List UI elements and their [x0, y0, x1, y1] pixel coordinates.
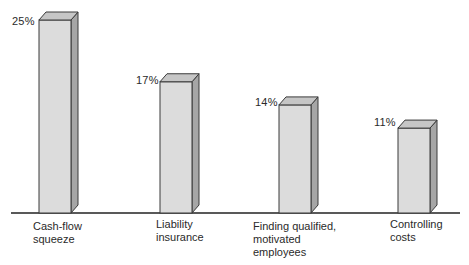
bar-chart: 25% 17% 14% 11% Cash-flow squeeze Liabil… [0, 0, 469, 265]
bar-front-face [398, 128, 430, 213]
bar-side-face [430, 120, 437, 213]
bar-2-category-label: Liability insurance [156, 218, 204, 244]
bar-side-face [192, 74, 199, 213]
bar-front-face [279, 105, 311, 213]
bar-side-face [71, 12, 78, 213]
bar-top-face [279, 97, 318, 105]
bar-3 [279, 97, 318, 213]
bar-2 [160, 74, 199, 213]
bar-1-category-label: Cash-flow squeeze [33, 220, 82, 246]
bars-group [39, 12, 437, 213]
bar-2-value-label: 17% [136, 74, 159, 86]
bar-top-face [398, 120, 437, 128]
bar-4-category-label: Controlling costs [390, 218, 443, 244]
bar-4-value-label: 11% [374, 116, 396, 128]
bar-3-category-label: Finding qualified, motivated employees [253, 220, 336, 259]
bar-side-face [311, 97, 318, 213]
bar-front-face [39, 20, 71, 213]
bar-top-face [39, 12, 78, 20]
bar-top-face [160, 74, 199, 82]
bar-4 [398, 120, 437, 213]
bar-1 [39, 12, 78, 213]
bar-1-value-label: 25% [12, 15, 35, 27]
bar-front-face [160, 82, 192, 213]
bar-3-value-label: 14% [255, 96, 278, 108]
